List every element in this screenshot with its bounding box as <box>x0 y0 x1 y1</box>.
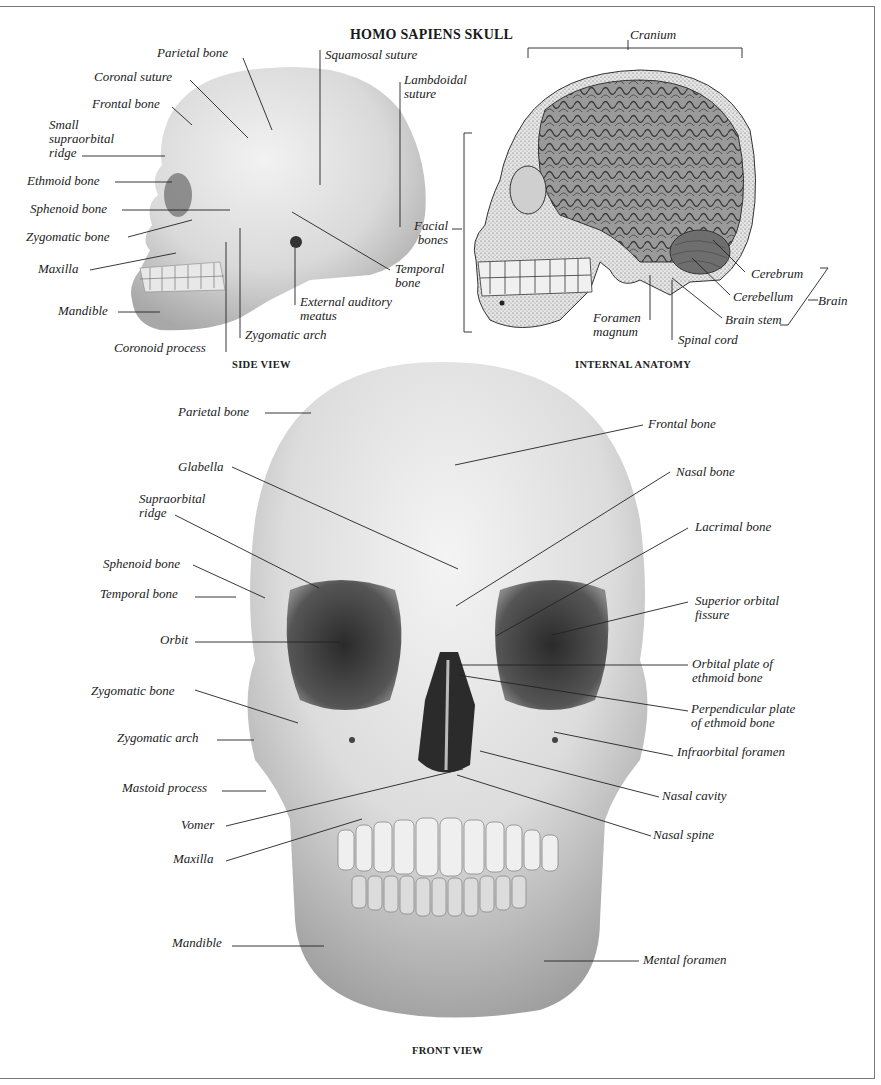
label-front-mastoid-process: Mastoid process <box>122 781 207 795</box>
label-front-parietal-bone: Parietal bone <box>178 405 249 419</box>
label-front-temporal-bone: Temporal bone <box>100 587 178 601</box>
figure-title: HOMO SAPIENS SKULL <box>350 27 513 43</box>
front-view-skull <box>248 362 648 1018</box>
label-cerebellum: Cerebellum <box>733 290 793 304</box>
label-front-orbit: Orbit <box>160 633 188 647</box>
label-front-superior-orbital-2: fissure <box>695 608 729 622</box>
label-side-lambdoidal-suture-1: Lambdoidal <box>404 73 467 87</box>
label-side-external-auditory-2: meatus <box>300 309 337 323</box>
label-front-infraorbital-foramen: Infraorbital foramen <box>677 745 785 759</box>
label-front-superior-orbital-1: Superior orbital <box>695 594 779 608</box>
label-side-parietal-bone: Parietal bone <box>157 46 228 60</box>
label-front-mandible: Mandible <box>172 936 222 950</box>
label-side-mandible: Mandible <box>58 304 108 318</box>
internal-anatomy-illustration <box>474 70 755 328</box>
label-spinal-cord: Spinal cord <box>678 333 738 347</box>
label-side-small-supraorbital-1: Small <box>49 118 79 132</box>
label-front-orbital-plate-1: Orbital plate of <box>692 657 773 671</box>
label-side-temporal-bone-2: bone <box>395 276 420 290</box>
label-side-maxilla: Maxilla <box>38 262 78 276</box>
label-front-zygomatic-bone: Zygomatic bone <box>91 684 174 698</box>
label-front-nasal-spine: Nasal spine <box>653 828 714 842</box>
label-side-small-supraorbital-2: supraorbital <box>49 132 114 146</box>
label-cerebrum: Cerebrum <box>751 267 803 281</box>
caption-front-view: FRONT VIEW <box>412 1045 483 1056</box>
label-front-vomer: Vomer <box>181 818 214 832</box>
label-foramen-magnum-1: Foramen <box>593 311 641 325</box>
label-cranium: Cranium <box>630 28 676 42</box>
label-front-perpendicular-plate-1: Perpendicular plate <box>691 702 795 716</box>
label-side-small-supraorbital-3: ridge <box>49 146 76 160</box>
label-facial-bones-2: bones <box>418 233 448 247</box>
label-side-zygomatic-bone: Zygomatic bone <box>26 230 109 244</box>
label-front-supraorbital-1: Supraorbital <box>139 492 205 506</box>
label-brain: Brain <box>818 294 848 308</box>
label-side-temporal-bone-1: Temporal <box>395 262 444 276</box>
label-side-lambdoidal-suture-2: suture <box>404 87 436 101</box>
label-front-orbital-plate-2: ethmoid bone <box>692 671 762 685</box>
label-front-supraorbital-2: ridge <box>139 506 166 520</box>
label-front-lacrimal-bone: Lacrimal bone <box>695 520 771 534</box>
label-front-nasal-cavity: Nasal cavity <box>662 789 727 803</box>
label-brain-stem: Brain stem <box>725 313 782 327</box>
label-front-mental-foramen: Mental foramen <box>643 953 726 967</box>
label-front-sphenoid-bone: Sphenoid bone <box>103 557 180 571</box>
illustrations <box>0 0 881 1085</box>
label-side-external-auditory-1: External auditory <box>300 295 392 309</box>
label-front-maxilla: Maxilla <box>173 852 213 866</box>
label-side-squamosal-suture: Squamosal suture <box>325 48 417 62</box>
label-front-frontal-bone: Frontal bone <box>648 417 716 431</box>
label-foramen-magnum-2: magnum <box>593 325 638 339</box>
label-front-nasal-bone: Nasal bone <box>676 465 735 479</box>
label-side-sphenoid-bone: Sphenoid bone <box>30 202 107 216</box>
label-side-zygomatic-arch: Zygomatic arch <box>245 328 326 342</box>
label-side-coronoid-process: Coronoid process <box>114 341 206 355</box>
label-facial-bones-1: Facial <box>414 219 448 233</box>
side-view-skull <box>131 67 426 330</box>
label-side-frontal-bone: Frontal bone <box>92 97 160 111</box>
label-front-zygomatic-arch: Zygomatic arch <box>117 731 198 745</box>
label-front-glabella: Glabella <box>178 460 224 474</box>
label-side-coronal-suture: Coronal suture <box>94 70 172 84</box>
label-front-perpendicular-plate-2: of ethmoid bone <box>691 716 775 730</box>
caption-internal-anatomy: INTERNAL ANATOMY <box>575 359 691 370</box>
label-side-ethmoid-bone: Ethmoid bone <box>27 174 100 188</box>
caption-side-view: SIDE VIEW <box>232 359 291 370</box>
